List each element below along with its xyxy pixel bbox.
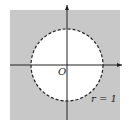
radius-label: r = 1 — [91, 93, 117, 104]
imaginary-axis-arrow-icon — [65, 5, 69, 10]
origin-label: O — [58, 66, 66, 77]
complex-plane-diagram: O r = 1 — [0, 0, 129, 122]
